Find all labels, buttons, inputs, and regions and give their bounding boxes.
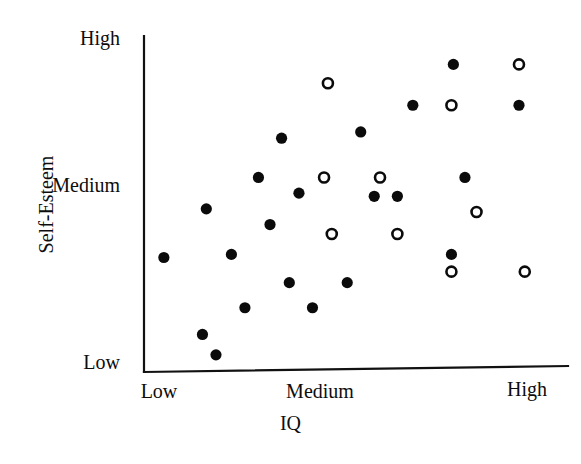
data-point-filled: [158, 252, 169, 263]
scatter-plot-figure: High Medium Low Low Medium High Self-Est…: [0, 0, 581, 464]
x-tick-label-high: High: [472, 379, 581, 399]
data-points: [158, 59, 530, 361]
data-point-filled: [459, 172, 470, 183]
data-point-open: [392, 229, 402, 239]
data-point-open: [472, 207, 482, 217]
data-point-open: [446, 267, 456, 277]
data-point-filled: [307, 302, 318, 313]
data-point-open: [323, 78, 333, 88]
data-point-filled: [210, 349, 221, 360]
x-tick-label-low: Low: [104, 381, 214, 401]
data-point-open: [319, 172, 329, 182]
y-tick-label-low: Low: [20, 352, 120, 372]
data-point-open: [514, 59, 524, 69]
data-point-filled: [448, 59, 459, 70]
data-point-open: [375, 172, 385, 182]
data-point-filled: [264, 219, 275, 230]
data-point-filled: [239, 302, 250, 313]
data-point-open: [327, 229, 337, 239]
data-point-filled: [355, 126, 366, 137]
x-axis-title: IQ: [0, 412, 581, 435]
data-point-filled: [253, 172, 264, 183]
data-point-open: [520, 267, 530, 277]
data-point-open: [446, 100, 456, 110]
data-point-filled: [197, 329, 208, 340]
data-point-filled: [276, 133, 287, 144]
y-axis-title: Self-Esteem: [35, 115, 58, 295]
data-point-filled: [446, 249, 457, 260]
data-point-filled: [369, 191, 380, 202]
data-point-filled: [284, 277, 295, 288]
data-point-filled: [293, 188, 304, 199]
data-point-filled: [226, 249, 237, 260]
x-axis-line: [144, 366, 568, 372]
data-point-filled: [407, 100, 418, 111]
data-point-filled: [342, 277, 353, 288]
y-tick-label-high: High: [20, 28, 120, 48]
data-point-filled: [201, 203, 212, 214]
data-point-filled: [513, 100, 524, 111]
data-point-filled: [392, 191, 403, 202]
x-tick-label-medium: Medium: [265, 381, 375, 401]
